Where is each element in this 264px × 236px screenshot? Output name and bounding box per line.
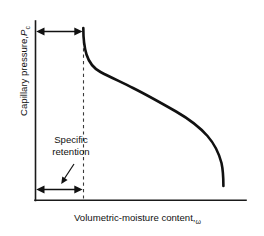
capillary-pressure-figure: Capillary pressure,Pc Volumetric-moistur…: [0, 0, 264, 236]
arrow-head-right-top: [74, 28, 82, 36]
x-axis-label: Volumetric-moisture content,ω: [30, 207, 245, 225]
x-axis-label-text: Volumetric-moisture content,ω: [74, 212, 201, 223]
specific-retention-label: Specific retention: [42, 134, 100, 158]
x-axis-label-symbol: ω: [196, 218, 201, 225]
specific-retention-label-line2: retention: [42, 146, 100, 158]
specific-retention-top-arrow: [36, 28, 82, 36]
specific-retention-label-line1: Specific: [42, 134, 100, 146]
y-axis-label-text: Capillary pressure,Pc: [18, 26, 29, 116]
y-axis-label-symbol: P: [18, 30, 29, 36]
y-axis-label-subscript: c: [24, 26, 31, 30]
arrow-head-right-bottom: [74, 186, 82, 194]
y-axis-label-main: Capillary pressure,: [18, 36, 29, 116]
specific-retention-bottom-arrow: [36, 186, 82, 194]
plot-area: [0, 0, 264, 236]
arrow-head-left-top: [36, 28, 44, 36]
x-axis-label-main: Volumetric-moisture content,: [74, 212, 196, 223]
y-axis-label: Capillary pressure,Pc: [13, 1, 31, 141]
capillary-pressure-curve: [83, 28, 223, 186]
arrow-head-left-bottom: [36, 186, 44, 194]
specific-retention-leader-arrow: [61, 164, 74, 184]
